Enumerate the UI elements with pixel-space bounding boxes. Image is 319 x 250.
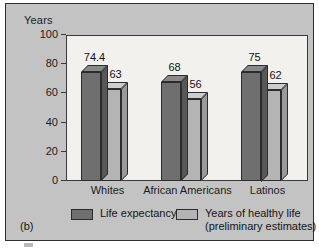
- bar-side-face: [181, 75, 188, 181]
- legend-swatch: [71, 209, 93, 220]
- y-axis: 020406080100: [6, 35, 66, 181]
- bar-group: 7562: [241, 35, 288, 181]
- figure-panel-b: Years 020406080100 74.46368567562 Whites…: [0, 0, 319, 250]
- bar-value-label: 62: [270, 69, 298, 81]
- scan-artifact: [24, 243, 33, 247]
- bar-front-face: [161, 82, 181, 181]
- bar: [161, 82, 181, 181]
- bar-side-face: [281, 83, 288, 181]
- bar: [241, 72, 261, 182]
- y-tick-label: 100: [40, 28, 58, 40]
- legend-label: Life expectancy: [100, 207, 176, 220]
- x-axis-label: Whites: [91, 184, 125, 196]
- bar-value-label: 56: [190, 78, 218, 90]
- bar-value-label: 68: [161, 61, 189, 73]
- bar: [81, 72, 101, 181]
- x-axis-labels: WhitesAfrican AmericansLatinos: [66, 184, 308, 200]
- bars-layer: 74.46368567562: [66, 35, 308, 181]
- bar-side-face: [101, 65, 108, 181]
- y-tick-label: 0: [52, 174, 58, 186]
- y-tick-label: 80: [46, 57, 58, 69]
- legend-swatch: [176, 209, 198, 220]
- legend-label-line2: (preliminary estimates): [205, 220, 316, 233]
- y-tick-label: 20: [46, 145, 58, 157]
- bar-group: 6856: [161, 35, 208, 181]
- y-axis-title: Years: [24, 14, 53, 26]
- legend-item[interactable]: Years of healthy life(preliminary estima…: [176, 207, 316, 233]
- bar-value-label: 63: [110, 68, 138, 80]
- y-tick-label: 40: [46, 116, 58, 128]
- bar-front-face: [81, 72, 101, 181]
- bar-side-face: [261, 65, 268, 182]
- legend-item[interactable]: Life expectancy: [71, 207, 176, 220]
- x-axis-label: Latinos: [250, 184, 285, 196]
- bar-front-face: [241, 72, 261, 182]
- chart-legend: Life expectancyYears of healthy life(pre…: [6, 207, 315, 239]
- legend-label: Years of healthy life(preliminary estima…: [205, 207, 316, 233]
- bar-side-face: [201, 92, 208, 181]
- x-axis-label: African Americans: [143, 184, 232, 196]
- panel-caption: (b): [20, 220, 33, 232]
- bar-side-face: [121, 82, 128, 181]
- bar-group: 74.463: [81, 35, 128, 181]
- chart-panel: Years 020406080100 74.46368567562 Whites…: [5, 3, 314, 241]
- y-tick-label: 60: [46, 86, 58, 98]
- bar-value-label: 74.4: [81, 51, 109, 63]
- bar-value-label: 75: [241, 51, 269, 63]
